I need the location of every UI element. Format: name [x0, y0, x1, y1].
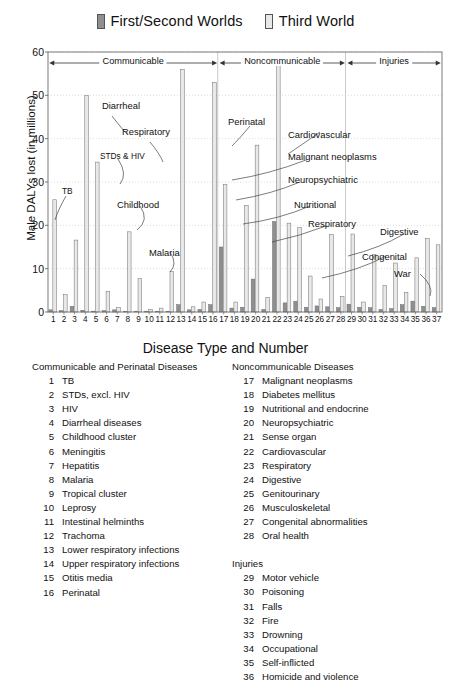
list-item-name: TB — [62, 374, 232, 388]
annotation-label: STDs & HIV — [100, 151, 145, 161]
list-item-injury: 35Self-inflicted — [232, 656, 447, 670]
band-label: Noncommunicable — [241, 56, 323, 66]
list-item-name: Genitourinary — [262, 487, 447, 501]
list-item-number: 24 — [232, 473, 262, 487]
list-item-name: Motor vehicle — [262, 571, 447, 585]
x-tick-label: 15 — [198, 315, 207, 324]
list-item-communicable: 14Upper respiratory infections — [32, 557, 232, 571]
x-tick-label: 10 — [145, 315, 154, 324]
list-item-name: Childhood cluster — [62, 430, 232, 444]
list-item-number: 27 — [232, 515, 262, 529]
list-item-number: 7 — [32, 459, 62, 473]
plot-svg — [0, 34, 451, 334]
list-item-noncommunicable: 27Congenital abnormalities — [232, 515, 447, 529]
x-tick-label: 1 — [51, 315, 56, 324]
annotation-label: Respiratory — [308, 218, 356, 229]
list-item-noncommunicable: 25Genitourinary — [232, 487, 447, 501]
list-item-name: Fire — [262, 614, 447, 628]
list-item-name: Nutritional and endocrine — [262, 402, 447, 416]
list-item-name: Poisoning — [262, 585, 447, 599]
list-item-number: 9 — [32, 487, 62, 501]
plot-area: Male DALYs lost (in millions) 0102030405… — [0, 34, 451, 334]
x-tick-label: 7 — [115, 315, 120, 324]
list-spacer — [232, 543, 447, 557]
disease-index-lists: Communicable and Perinatal Diseases 1TB2… — [0, 360, 451, 628]
annotation-label: Neuropsychiatric — [288, 174, 358, 185]
list-item-name: Trachoma — [62, 529, 232, 543]
x-tick-label: 37 — [432, 315, 441, 324]
annotation-label: War — [394, 268, 411, 279]
x-tick-label: 5 — [94, 315, 99, 324]
list-item-name: Oral health — [262, 529, 447, 543]
list-item-number: 18 — [232, 388, 262, 402]
list-item-number: 26 — [232, 501, 262, 515]
annotation-label: Cardiovascular — [288, 129, 351, 140]
list-item-number: 23 — [232, 459, 262, 473]
list-item-number: 34 — [232, 642, 262, 656]
list-item-injury: 30Poisoning — [232, 585, 447, 599]
x-tick-label: 3 — [72, 315, 77, 324]
x-tick-label: 18 — [230, 315, 239, 324]
list-item-noncommunicable: 17Malignant neoplasms — [232, 374, 447, 388]
x-tick-label: 32 — [379, 315, 388, 324]
y-tick-label: 60 — [18, 46, 44, 58]
list-item-communicable: 9Tropical cluster — [32, 487, 232, 501]
list-item-name: Hepatitis — [62, 459, 232, 473]
list-item-injury: 33Drowning — [232, 628, 447, 642]
list-item-communicable: 1TB — [32, 374, 232, 388]
x-tick-label: 4 — [83, 315, 88, 324]
list-item-name: Diabetes mellitus — [262, 388, 447, 402]
x-tick-label: 21 — [262, 315, 271, 324]
legend-swatch-light-icon — [265, 14, 273, 29]
list-item-number: 10 — [32, 501, 62, 515]
y-tick-label: 0 — [18, 306, 44, 318]
list-item-name: Falls — [262, 600, 447, 614]
list-item-name: Congenital abnormalities — [262, 515, 447, 529]
list-item-name: Musculoskeletal — [262, 501, 447, 515]
list-item-noncommunicable: 18Diabetes mellitus — [232, 388, 447, 402]
list-item-name: Homicide and violence — [262, 670, 447, 684]
list-item-number: 15 — [32, 571, 62, 585]
list-item-communicable: 16Perinatal — [32, 586, 232, 600]
list-item-name: Lower respiratory infections — [62, 543, 232, 557]
list-item-injury: 31Falls — [232, 600, 447, 614]
list-item-name: Occupational — [262, 642, 447, 656]
x-tick-label: 25 — [304, 315, 313, 324]
x-tick-label: 9 — [136, 315, 141, 324]
x-tick-label: 20 — [251, 315, 260, 324]
list-item-injury: 29Motor vehicle — [232, 571, 447, 585]
y-tick-label: 20 — [18, 219, 44, 231]
x-axis-title: Disease Type and Number — [0, 340, 451, 356]
x-tick-label: 19 — [240, 315, 249, 324]
list-item-communicable: 10Leprosy — [32, 501, 232, 515]
list-item-number: 33 — [232, 628, 262, 642]
annotation-label: Respiratory — [122, 126, 170, 137]
list-item-name: Respiratory — [262, 459, 447, 473]
list-item-number: 16 — [32, 586, 62, 600]
annotation-label: Digestive — [380, 226, 419, 237]
list-item-noncommunicable: 24Digestive — [232, 473, 447, 487]
list-item-injury: 36Homicide and violence — [232, 670, 447, 684]
annotation-label: Malaria — [149, 247, 180, 258]
band-label: Communicable — [100, 56, 167, 66]
list-item-number: 4 — [32, 416, 62, 430]
y-tick-label: 10 — [18, 263, 44, 275]
x-tick-label: 22 — [272, 315, 281, 324]
list-item-number: 17 — [232, 374, 262, 388]
legend-label-third-world: Third World — [279, 13, 355, 29]
list-item-noncommunicable: 21Sense organ — [232, 430, 447, 444]
list-item-number: 2 — [32, 388, 62, 402]
list-heading-injuries: Injuries — [232, 557, 447, 571]
x-tick-label: 16 — [208, 315, 217, 324]
list-item-noncommunicable: 23Respiratory — [232, 459, 447, 473]
x-tick-label: 12 — [166, 315, 175, 324]
x-tick-label: 28 — [336, 315, 345, 324]
chart-legend: First/Second Worlds Third World — [0, 8, 451, 34]
list-item-noncommunicable: 26Musculoskeletal — [232, 501, 447, 515]
annotation-label: TB — [62, 186, 73, 196]
list-item-name: Tropical cluster — [62, 487, 232, 501]
list-item-number: 6 — [32, 445, 62, 459]
list-heading-noncommunicable: Noncommunicable Diseases — [232, 360, 447, 374]
list-item-communicable: 5Childhood cluster — [32, 430, 232, 444]
annotation-label: Diarrheal — [102, 100, 140, 111]
